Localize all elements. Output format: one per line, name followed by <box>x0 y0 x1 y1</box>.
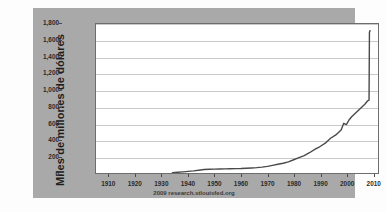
y-tick-label: 1,600 <box>25 36 59 43</box>
y-tick-label: 600 <box>25 120 59 127</box>
x-tick-label: 1960 <box>226 180 256 187</box>
x-tick-mark <box>214 174 215 177</box>
y-tick-label: 1,200 <box>25 69 59 76</box>
x-tick-mark <box>135 174 136 177</box>
y-tick-label: 200 <box>25 153 59 160</box>
plot-area <box>95 23 379 174</box>
x-tick-label: 1930 <box>146 180 176 187</box>
x-tick-mark <box>294 174 295 177</box>
x-tick-mark <box>188 174 189 177</box>
y-tick-mark <box>59 107 62 108</box>
y-tick-label: 1,000 <box>25 86 59 93</box>
x-tick-label: 1950 <box>199 180 229 187</box>
x-tick-mark <box>241 174 242 177</box>
source-note: 2009 research.stlouisfed.org <box>33 190 355 196</box>
y-tick-label: 1,800 <box>25 19 59 26</box>
x-tick-label: 1910 <box>93 180 123 187</box>
y-tick-mark <box>59 73 62 74</box>
series-base-monetaria <box>172 31 370 173</box>
data-series-line <box>96 24 378 173</box>
x-tick-mark <box>347 174 348 177</box>
y-tick-mark <box>59 40 62 41</box>
x-tick-mark <box>161 174 162 177</box>
y-tick-mark <box>59 124 62 125</box>
y-tick-mark <box>59 57 62 58</box>
x-tick-label: 1980 <box>279 180 309 187</box>
x-tick-label: 2010 <box>359 180 386 187</box>
y-tick-mark <box>59 23 62 24</box>
y-tick-label: 0 <box>25 170 59 177</box>
y-tick-label: 1,400 <box>25 53 59 60</box>
y-tick-mark <box>59 174 62 175</box>
x-tick-label: 2000 <box>332 180 362 187</box>
y-tick-label: 800 <box>25 103 59 110</box>
x-tick-label: 1990 <box>306 180 336 187</box>
x-tick-label: 1920 <box>120 180 150 187</box>
chart-frame: Miles de millones de dólares 02004006008… <box>33 8 355 198</box>
y-tick-mark <box>59 90 62 91</box>
x-tick-label: 1970 <box>253 180 283 187</box>
y-tick-label: 400 <box>25 136 59 143</box>
x-tick-mark <box>108 174 109 177</box>
x-tick-mark <box>268 174 269 177</box>
x-tick-label: 1940 <box>173 180 203 187</box>
y-tick-mark <box>59 140 62 141</box>
x-tick-mark <box>321 174 322 177</box>
x-tick-mark <box>374 174 375 177</box>
y-tick-mark <box>59 157 62 158</box>
